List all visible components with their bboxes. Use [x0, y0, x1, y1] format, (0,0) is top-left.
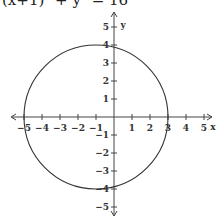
- x-tick-label: −3: [53, 123, 67, 133]
- y-tick-label: −3: [95, 166, 109, 176]
- y-tick-label: −2: [95, 148, 109, 158]
- x-tick-label: 5: [201, 123, 207, 133]
- x-tick-label: 2: [147, 123, 153, 133]
- x-tick-label: −4: [35, 123, 49, 133]
- x-tick-label: −2: [71, 123, 85, 133]
- x-tick-label: 1: [129, 123, 135, 133]
- y-tick-label: 2: [103, 76, 109, 86]
- y-tick-label: −1: [95, 130, 109, 140]
- y-tick-label: 3: [103, 58, 109, 68]
- x-tick-label: 4: [183, 123, 189, 133]
- y-tick-label: 5: [103, 22, 109, 32]
- y-axis-label: y: [119, 20, 126, 30]
- y-tick-label: −5: [95, 202, 109, 212]
- plot-area: −5−4−3−2−11234554321−1−2−3−4−5xy: [0, 0, 218, 219]
- y-tick-label: 1: [103, 94, 109, 104]
- x-axis-label: x: [210, 122, 216, 132]
